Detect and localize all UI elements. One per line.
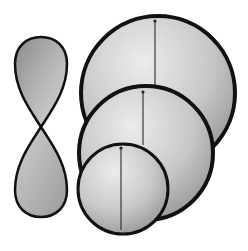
small-circle-axis-dot bbox=[119, 146, 122, 149]
figure-eight-bottom-lobe bbox=[15, 127, 67, 217]
medium-circle-axis-dot bbox=[141, 90, 144, 93]
large-circle-axis-dot bbox=[153, 19, 156, 22]
figure-eight-top-lobe bbox=[15, 37, 67, 127]
figure-eight bbox=[15, 37, 67, 217]
small-circle bbox=[78, 144, 168, 234]
diagram-canvas bbox=[0, 0, 248, 251]
